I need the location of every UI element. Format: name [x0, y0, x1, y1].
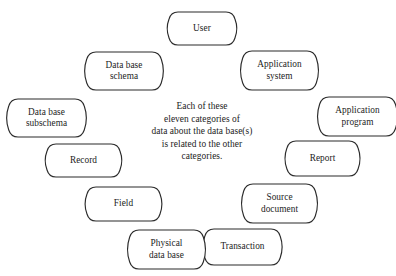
- node-shape-report[interactable]: [285, 141, 360, 176]
- center-text-line: data about the data base(s): [133, 125, 271, 138]
- node-shape-physical-data-base[interactable]: [128, 230, 206, 269]
- node-shape-record[interactable]: [45, 144, 122, 177]
- node-shape-transaction[interactable]: [203, 229, 282, 265]
- node-shape-user[interactable]: [167, 12, 237, 45]
- node-shape-application-program[interactable]: [318, 97, 396, 136]
- node-shape-field[interactable]: [85, 187, 162, 221]
- diagram-canvas: UserApplicationsystemApplicationprogramR…: [0, 0, 396, 276]
- center-text-line: categories.: [133, 150, 271, 163]
- node-shape-application-system[interactable]: [241, 51, 319, 90]
- node-shape-data-base-schema[interactable]: [85, 52, 164, 90]
- center-text-line: eleven categories of: [133, 113, 271, 126]
- center-text-line: is related to the other: [133, 138, 271, 151]
- center-text-line: Each of these: [133, 100, 271, 113]
- node-shape-source-document[interactable]: [242, 184, 318, 223]
- center-description-text: Each of theseeleven categories ofdata ab…: [133, 100, 271, 163]
- node-shape-data-base-subschema[interactable]: [7, 99, 87, 137]
